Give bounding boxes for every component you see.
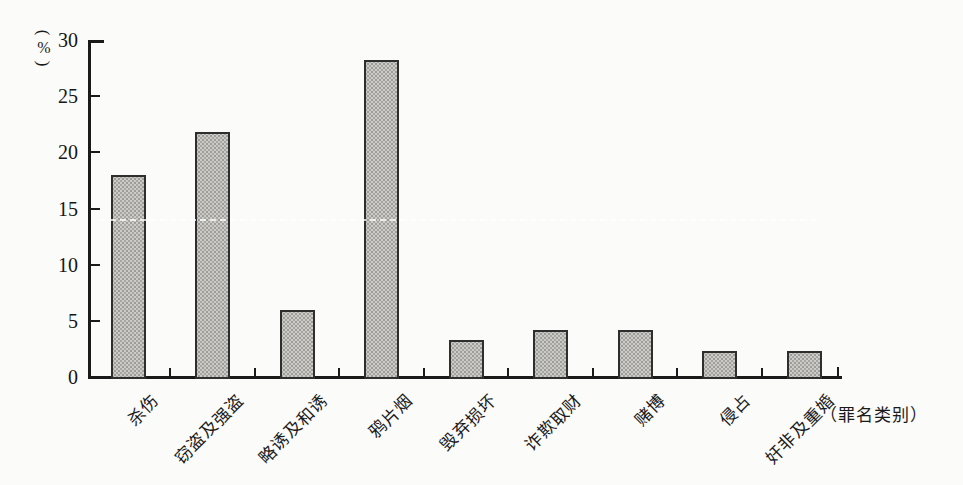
x-axis-tick: [169, 368, 171, 376]
y-axis-tick: [91, 95, 100, 97]
unit-close-paren: ): [37, 61, 50, 67]
x-category-label: 窃盗及强盗: [167, 387, 248, 468]
y-axis-tick: [91, 264, 100, 266]
bar-6: [533, 330, 568, 379]
y-tick-label: 25: [32, 85, 78, 107]
crime-percentage-bar-chart: ( % ) 051015202530杀伤窃盗及强盗略诱及和诱鸦片烟毁弃损坏诈欺取…: [0, 0, 963, 485]
y-tick-label: 20: [32, 141, 78, 163]
x-axis-tick: [254, 368, 256, 376]
y-tick-label: 10: [32, 254, 78, 276]
y-axis-line: [88, 40, 91, 379]
y-axis-tick: [91, 40, 104, 43]
bar-9: [787, 351, 822, 379]
x-axis-tick: [592, 368, 594, 376]
x-category-label: 杀伤: [121, 387, 164, 430]
y-axis-tick: [91, 320, 100, 322]
x-category-label: 略诱及和诱: [251, 387, 332, 468]
x-category-label: 侵占: [712, 387, 755, 430]
bar-3: [280, 310, 315, 379]
bar-1: [111, 175, 146, 379]
x-axis-end-tick: [837, 367, 839, 376]
x-axis-tick: [761, 368, 763, 376]
y-tick-label: 15: [32, 198, 78, 220]
x-category-label: 诈欺取财: [518, 387, 587, 456]
x-axis-title: （罪名类别）: [820, 401, 928, 426]
x-axis-tick: [423, 368, 425, 376]
bar-4: [364, 60, 399, 379]
bar-7: [618, 330, 653, 379]
x-axis-tick: [676, 368, 678, 376]
y-axis-tick: [91, 208, 100, 210]
x-category-label: 赌博: [628, 387, 671, 430]
y-tick-label: 0: [32, 366, 78, 388]
x-category-label: 鸦片烟: [361, 387, 417, 443]
y-axis-tick: [91, 151, 100, 153]
bar-8: [702, 351, 737, 379]
y-tick-label: 5: [32, 310, 78, 332]
x-category-label: 奸非及重婚: [758, 387, 839, 468]
x-axis-tick: [338, 368, 340, 376]
bar-5: [449, 340, 484, 379]
bar-2: [195, 132, 230, 379]
y-tick-label: 30: [32, 29, 78, 51]
x-axis-tick: [507, 368, 509, 376]
x-category-label: 毁弃损坏: [433, 387, 502, 456]
